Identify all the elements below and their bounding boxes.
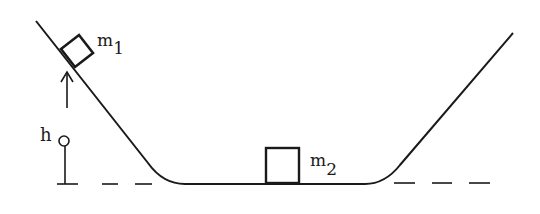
label-h0: h [40,124,52,145]
label-m1: m1 [97,30,124,58]
height-indicator [59,72,73,184]
block-m1 [61,35,93,67]
diagram-canvas: m1 h m2 [0,0,540,214]
label-m2: m2 [310,150,337,179]
block-m2 [266,148,299,183]
